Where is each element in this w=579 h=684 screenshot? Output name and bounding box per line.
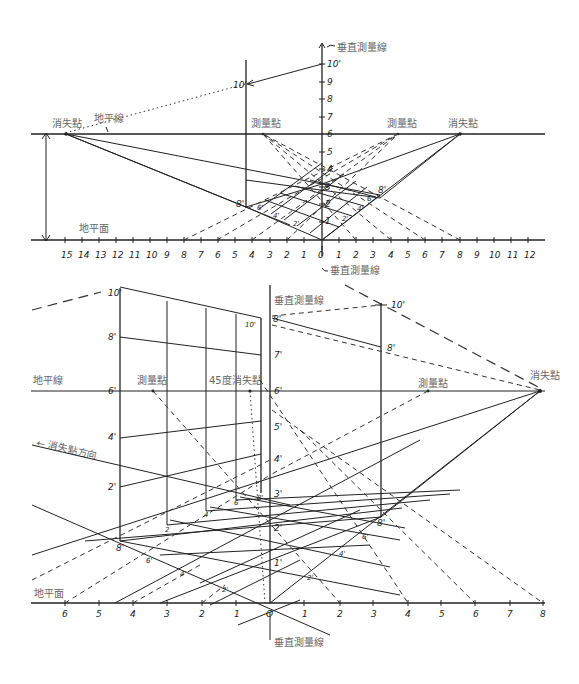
post-bottom-label: 2	[165, 526, 170, 534]
svg-text:13: 13	[95, 250, 107, 260]
vp-line	[32, 391, 540, 555]
grid-label: 2'	[293, 220, 299, 228]
wall-8-line	[120, 337, 261, 355]
figure-bottom: 垂直測量線 垂直測量線 8' 7' 6' 5' 4' 3' 2' 1' 10' …	[31, 285, 560, 648]
grid-label: 2'	[342, 215, 348, 223]
svg-text:4: 4	[249, 250, 255, 260]
ground-scale-left: 6 5 4 3 2 1	[62, 609, 240, 619]
svg-text:7: 7	[439, 250, 445, 260]
center-scale-4: 4'	[274, 454, 282, 464]
svg-text:1: 1	[302, 609, 308, 619]
wall-top-line	[120, 287, 261, 318]
svg-text:12: 12	[524, 250, 536, 260]
svg-text:2: 2	[337, 609, 343, 619]
vertical-measure-line-bottom-label: 垂直測量線	[274, 636, 324, 648]
scale-label-10: 10'	[327, 59, 341, 69]
scale-label-9: 9	[327, 77, 333, 87]
svg-text:10: 10	[146, 250, 158, 260]
svg-text:7: 7	[507, 609, 513, 619]
scale-label-5: 5	[327, 147, 333, 157]
ground-plane-label: 地平面	[34, 587, 64, 599]
svg-text:15: 15	[61, 250, 73, 260]
svg-text:3: 3	[371, 609, 377, 619]
svg-text:4: 4	[130, 609, 136, 619]
center-scale-6: 6'	[274, 386, 282, 396]
scale-label-7: 7	[327, 112, 333, 122]
svg-text:1: 1	[234, 609, 240, 619]
ground-origin: 0	[318, 250, 324, 260]
floor-grid	[32, 440, 460, 635]
direction-line	[32, 445, 290, 505]
vp-line	[381, 391, 540, 517]
svg-text:6: 6	[422, 250, 428, 260]
grid-label: 6'	[367, 195, 373, 203]
svg-text:5: 5	[96, 609, 102, 619]
svg-text:3: 3	[267, 250, 273, 260]
vp-line	[66, 134, 322, 184]
svg-text:8: 8	[540, 609, 546, 619]
svg-text:8: 8	[457, 250, 463, 260]
svg-text:6: 6	[62, 609, 68, 619]
measuring-point-left-label: 測量點	[137, 374, 167, 386]
grid-label: 4'	[339, 550, 345, 558]
transfer-dash	[272, 325, 540, 390]
ground-scale-left: 15 14 13 12 11 10 9 8 7 6 5 4 3 2 1	[61, 250, 307, 260]
measuring-point-right-label: 測量點	[387, 117, 417, 129]
ground-scale-right: 1 2 3 4 5 6 7 8 9 10 11 12	[336, 250, 536, 260]
grid-label: 4'	[273, 212, 279, 220]
left-post-4: 4'	[108, 432, 116, 442]
transfer-line-10	[248, 64, 322, 84]
transfer-dash	[272, 305, 381, 316]
right-post-top: 10'	[391, 300, 405, 310]
leader-line	[106, 127, 108, 132]
leader-line	[322, 268, 328, 271]
center-scale-2: 2'	[274, 523, 282, 533]
svg-text:7: 7	[198, 250, 204, 260]
grid-label: 6'	[362, 533, 368, 541]
center-scale-5: 5'	[274, 422, 282, 432]
figure-top: 10' 9 8 7 6 5 4 3 2 1 垂直測量線 10' 8' 消失點 地…	[31, 41, 545, 276]
svg-text:5: 5	[405, 250, 411, 260]
grid-label: 4'	[357, 205, 363, 213]
svg-text:3: 3	[164, 609, 170, 619]
grid-label: 2'	[307, 574, 313, 582]
svg-text:6: 6	[473, 609, 479, 619]
svg-text:2: 2	[199, 609, 205, 619]
svg-text:2: 2	[353, 250, 359, 260]
transfer-line	[272, 318, 381, 347]
inner-post-top: 10'	[245, 321, 256, 329]
vertical-measure-line-bottom-label: 垂直測量線	[330, 264, 380, 276]
grid-label: 2'	[222, 586, 228, 594]
grid-label: 6'	[257, 204, 263, 212]
center-scale-1: 1'	[274, 558, 282, 568]
svg-text:12: 12	[112, 250, 124, 260]
perspective-diagram: 10' 9 8 7 6 5 4 3 2 1 垂直測量線 10' 8' 消失點 地…	[0, 0, 579, 684]
svg-text:1: 1	[301, 250, 307, 260]
svg-text:1: 1	[336, 250, 342, 260]
vanishing-point-left-label: 消失點	[52, 117, 82, 129]
dotted-line-to-vp	[65, 84, 245, 133]
vanishing-point-right-label: 消失點	[530, 369, 560, 381]
measuring-point-right-label: 測量點	[418, 377, 448, 389]
svg-text:9: 9	[474, 250, 480, 260]
right-post-mid: 8'	[387, 343, 395, 353]
svg-text:14: 14	[78, 250, 90, 260]
svg-text:3: 3	[370, 250, 376, 260]
vanishing-point-right-label: 消失點	[448, 117, 478, 129]
left-post-8: 8'	[108, 332, 116, 342]
svg-text:6: 6	[215, 250, 221, 260]
long-dash-line	[32, 292, 101, 310]
svg-text:4: 4	[405, 609, 411, 619]
svg-text:5: 5	[232, 250, 238, 260]
ground-scale-right: 1 2 3 4 5 6 7 8	[302, 609, 546, 619]
svg-text:10: 10	[489, 250, 501, 260]
wall-4-line	[120, 421, 261, 438]
horizon-line-label: 地平線	[94, 112, 124, 124]
vertical-measure-line-label: 垂直測量線	[337, 41, 387, 53]
vertical-measure-line-label: 垂直測量線	[274, 294, 324, 306]
scale-label-8: 8	[327, 94, 333, 104]
svg-text:4: 4	[388, 250, 394, 260]
long-dash-line	[345, 285, 540, 388]
grid-label: 6'	[146, 557, 152, 565]
svg-text:2: 2	[284, 250, 290, 260]
